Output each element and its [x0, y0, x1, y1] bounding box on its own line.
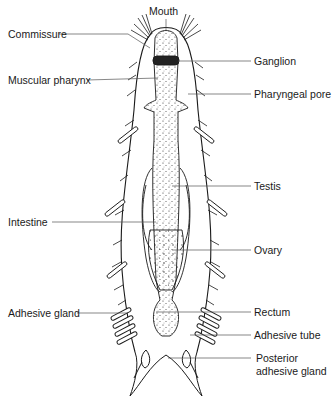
label-commissure: Commissure	[8, 28, 67, 40]
label-posterior-adhesive-gland: Posterior adhesive gland	[256, 352, 327, 378]
label-ovary: Ovary	[254, 244, 282, 256]
label-intestine: Intestine	[8, 216, 48, 228]
label-pharyngeal-pore: Pharyngeal pore	[254, 88, 331, 100]
label-muscular-pharynx: Muscular pharynx	[8, 74, 91, 86]
label-rectum: Rectum	[254, 306, 290, 318]
label-ganglion: Ganglion	[254, 55, 296, 67]
label-adhesive-gland: Adhesive gland	[8, 307, 80, 319]
label-mouth: Mouth	[149, 5, 178, 17]
label-testis: Testis	[254, 180, 281, 192]
label-posterior-adhesive-gland-line2: adhesive gland	[256, 365, 327, 378]
leader-lines	[52, 19, 251, 358]
ganglion-band	[153, 56, 179, 65]
label-adhesive-tube: Adhesive tube	[254, 329, 321, 341]
furca	[130, 350, 202, 396]
label-posterior-adhesive-gland-line1: Posterior	[256, 352, 327, 365]
